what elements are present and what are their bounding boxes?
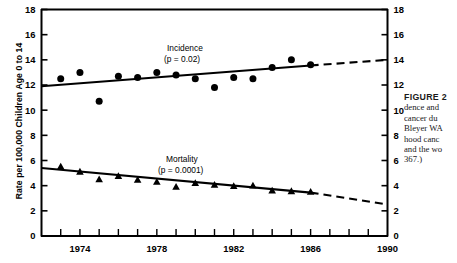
extrapolation-line-mortality (311, 193, 388, 205)
data-point-incidence (115, 73, 122, 80)
data-point-incidence (134, 74, 141, 81)
mortality-label: Mortality (166, 154, 198, 164)
y-tick-label-right: 8 (394, 130, 399, 141)
x-tick-label: 1990 (377, 243, 398, 254)
incidence-annotation: Incidence (p = 0.02) (164, 43, 203, 64)
y-tick-label-left: 16 (25, 29, 35, 40)
extrapolation-line-incidence (311, 60, 388, 66)
axis-frame (41, 9, 388, 237)
y-tick-label-left: 12 (25, 79, 35, 90)
y-tick-label-right: 6 (394, 155, 399, 166)
mortality-annotation: Mortality (p = 0.0001) (158, 154, 204, 175)
figure-caption-body: dence andcancer duBleyer WAhood cancand … (404, 102, 457, 164)
data-point-incidence (192, 75, 199, 82)
figure-caption-heading: FIGURE 2 (404, 92, 457, 102)
data-point-mortality (172, 183, 180, 190)
data-point-incidence (288, 56, 295, 63)
x-tick-label: 1986 (300, 243, 321, 254)
y-tick-label-right: 12 (394, 79, 404, 90)
figure-caption-line: hood canc (404, 134, 457, 144)
y-tick-label-left: 8 (30, 130, 35, 141)
x-tick-label: 1974 (70, 243, 92, 254)
x-axis-ticks (61, 229, 369, 236)
y-tick-label-left: 4 (30, 180, 36, 191)
y-tick-label-left: 6 (30, 155, 35, 166)
data-point-incidence (211, 84, 218, 91)
figure-caption-line: cancer du (404, 113, 457, 123)
y-tick-label-left: 2 (30, 205, 35, 216)
y-tick-label-right: 14 (394, 54, 405, 65)
figure-caption-line: and the wo (404, 144, 457, 154)
y-tick-label-left: 0 (30, 230, 35, 241)
data-point-incidence (249, 75, 256, 82)
y-tick-label-right: 4 (394, 180, 400, 191)
data-point-incidence (307, 61, 314, 68)
y-tick-label-left: 10 (25, 105, 35, 116)
x-tick-label: 1978 (146, 243, 167, 254)
figure-container: Rate per 100,000 Children Age 0 to 14 02… (0, 0, 457, 263)
figure-caption-line: 367.) (404, 154, 457, 164)
y-tick-label-right: 18 (394, 4, 404, 15)
y-tick-label-right: 0 (394, 230, 399, 241)
data-point-incidence (153, 69, 160, 76)
figure-caption-line: Bleyer WA (404, 123, 457, 133)
figure-caption-line: dence and (404, 102, 457, 112)
figure-caption: FIGURE 2 dence andcancer duBleyer WAhood… (404, 92, 457, 178)
y-tick-label-left: 14 (25, 54, 36, 65)
chart-plot-area: 024681012141618 024681012141618 19741978… (0, 0, 457, 263)
mortality-pvalue: (p = 0.0001) (158, 165, 204, 175)
y-tick-label-right: 16 (394, 29, 404, 40)
data-point-incidence (269, 64, 276, 71)
y-tick-label-right: 2 (394, 205, 399, 216)
data-point-mortality (95, 175, 103, 182)
y-axis-left-ticks: 024681012141618 (25, 4, 47, 242)
incidence-pvalue: (p = 0.02) (164, 54, 200, 64)
data-point-mortality (249, 182, 257, 189)
data-point-mortality (57, 163, 65, 170)
x-tick-label: 1982 (223, 243, 244, 254)
incidence-label: Incidence (167, 43, 203, 53)
data-point-incidence (230, 74, 237, 81)
y-tick-label-right: 10 (394, 105, 404, 116)
y-axis-right-ticks: 024681012141618 (382, 4, 405, 242)
y-tick-label-left: 18 (25, 4, 35, 15)
data-point-incidence (173, 71, 180, 78)
data-point-incidence (57, 75, 64, 82)
data-point-incidence (96, 98, 103, 105)
data-point-incidence (76, 69, 83, 76)
x-axis-tick-labels: 19741978198219861990 (70, 243, 398, 254)
